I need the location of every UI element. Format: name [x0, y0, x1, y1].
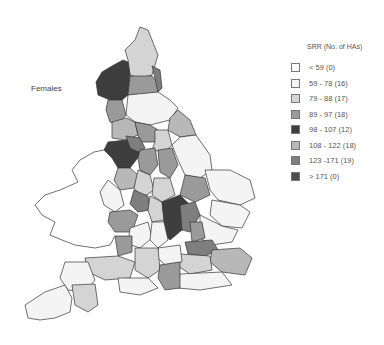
region-devon-south — [72, 284, 98, 312]
region-surrey — [178, 254, 212, 274]
legend-swatch — [291, 63, 300, 72]
region-lancashire — [112, 118, 138, 140]
legend-swatch — [291, 141, 300, 150]
legend-label: 79 - 88 (17) — [309, 94, 348, 103]
legend-item: 59 - 78 (16) — [291, 76, 362, 92]
legend-item: 98 - 107 (12) — [291, 122, 362, 138]
legend-swatch — [291, 125, 300, 134]
legend-swatch — [291, 94, 300, 103]
legend-swatch — [291, 110, 300, 119]
legend-label: < 59 (0) — [309, 63, 335, 72]
legend-swatch — [291, 156, 300, 165]
legend-swatch — [291, 172, 300, 181]
legend-label: 89 - 97 (18) — [309, 110, 348, 119]
legend-item: 108 - 122 (18) — [291, 138, 362, 154]
legend-item: > 171 (0) — [291, 169, 362, 185]
region-cumbria — [96, 60, 130, 100]
legend-label: > 171 (0) — [309, 172, 339, 181]
region-hertfordshire — [190, 222, 205, 242]
region-cornwall — [25, 285, 72, 320]
legend: SRR (No. of HAs) < 59 (0) 59 - 78 (16) 7… — [291, 43, 362, 184]
legend-label: 123 -171 (19) — [309, 156, 354, 165]
region-sussex — [178, 272, 232, 290]
region-kent — [210, 248, 252, 275]
legend-label: 98 - 107 (12) — [309, 125, 352, 134]
legend-label: 108 - 122 (18) — [309, 141, 356, 150]
map-title: Females — [31, 84, 62, 93]
region-cambridgeshire — [180, 175, 210, 202]
region-dorset — [118, 278, 158, 295]
legend-item: 79 - 88 (17) — [291, 91, 362, 107]
legend-title: SRR (No. of HAs) — [307, 43, 362, 50]
legend-item: < 59 (0) — [291, 60, 362, 76]
legend-item: 123 -171 (19) — [291, 153, 362, 169]
legend-item: 89 - 97 (18) — [291, 107, 362, 123]
region-avon — [115, 236, 132, 256]
legend-swatch — [291, 79, 300, 88]
region-wiltshire — [135, 248, 160, 278]
legend-label: 59 - 78 (16) — [309, 79, 348, 88]
region-hampshire — [158, 262, 180, 290]
